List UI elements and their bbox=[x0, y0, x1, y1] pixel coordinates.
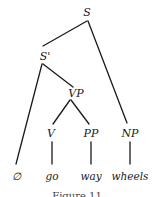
edge-sbar-vp bbox=[43, 64, 73, 87]
edge-vp-v bbox=[53, 100, 70, 124]
edge-vp-pp bbox=[71, 100, 89, 124]
node-s: S bbox=[83, 7, 91, 18]
leaf-wheels: wheels bbox=[112, 171, 149, 182]
leaf-empty: ∅ bbox=[12, 171, 21, 182]
leaf-way: way bbox=[80, 171, 101, 182]
leaf-go: go bbox=[45, 171, 58, 182]
node-np: NP bbox=[121, 128, 138, 139]
node-v: V bbox=[47, 128, 55, 139]
edge-s-sbar bbox=[43, 21, 87, 46]
node-vp: VP bbox=[68, 88, 83, 99]
node-pp: PP bbox=[84, 128, 99, 139]
node-s-bar: S' bbox=[40, 51, 51, 62]
edge-sbar-empty bbox=[16, 64, 42, 164]
edge-s-np bbox=[88, 21, 127, 123]
figure-caption: Figure 11 bbox=[52, 190, 102, 197]
